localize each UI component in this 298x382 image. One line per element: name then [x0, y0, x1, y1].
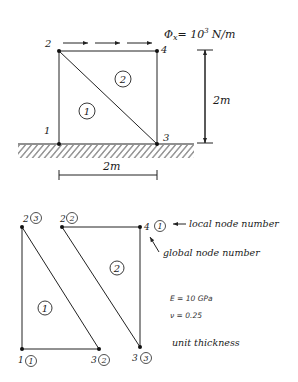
e1-global-node-3: 3	[91, 355, 97, 365]
element-label-1-bottom: 1	[42, 303, 48, 314]
height-dimension-label: 2m	[212, 94, 230, 107]
e2-node-dot-3	[138, 345, 142, 349]
element-label-2: 2	[119, 74, 126, 85]
e2-global-node-2: 2	[59, 214, 66, 224]
e2-local-node-2: 2	[68, 214, 74, 223]
global-node-arrow	[150, 237, 159, 252]
element-1-exploded: 1 2 3 1 1 3 2	[18, 213, 110, 367]
element-2-exploded: 2 2 2 4 1 3 3	[59, 213, 166, 364]
e2-node-dot-2	[60, 225, 64, 229]
node-label-3: 3	[163, 132, 169, 143]
fem-diagram: 1 2 3 4 1 2 Φx= 103N/m 2m	[0, 0, 298, 382]
poisson-ratio: ν = 0.25	[170, 311, 202, 320]
e1-node-dot-2	[20, 225, 24, 229]
e1-local-node-3: 3	[33, 214, 38, 223]
height-dimension	[197, 50, 213, 143]
legend: local node number global node number	[150, 218, 280, 258]
e2-local-node-3: 3	[143, 354, 148, 363]
e2-local-node-1: 1	[157, 222, 162, 231]
node-label-2: 2	[44, 38, 51, 49]
node-dot-3	[155, 142, 159, 146]
width-dimension-label: 2m	[102, 160, 120, 173]
e2-global-node-4: 4	[143, 222, 150, 232]
e1-local-node-2: 2	[100, 356, 106, 365]
thickness-note: unit thickness	[172, 337, 240, 348]
e1-node-dot-1	[20, 347, 24, 351]
local-node-number-label: local node number	[189, 218, 280, 229]
diagonal-2-3	[59, 51, 157, 144]
top-structure: 1 2 3 4 1 2 Φx= 103N/m 2m	[18, 27, 236, 180]
node-dot-4	[155, 49, 159, 53]
ground-support	[18, 145, 194, 158]
element-label-1: 1	[84, 106, 90, 117]
element-label-2-bottom: 2	[113, 263, 120, 274]
e1-node-dot-3	[97, 347, 101, 351]
e2-global-node-3: 3	[132, 353, 138, 363]
node-dot-2	[57, 49, 61, 53]
node-label-4: 4	[160, 44, 167, 55]
material-properties: E = 10 GPa ν = 0.25 unit thickness	[170, 294, 240, 348]
node-dot-1	[57, 142, 61, 146]
youngs-modulus: E = 10 GPa	[170, 294, 213, 303]
e1-local-node-1: 1	[28, 357, 33, 366]
e1-global-node-1: 1	[18, 355, 24, 365]
node-label-1: 1	[44, 125, 50, 136]
e1-global-node-2: 2	[22, 214, 29, 224]
global-node-number-label: global node number	[163, 247, 261, 258]
e2-node-dot-4	[138, 225, 142, 229]
load-label: Φx= 103N/m	[164, 27, 236, 42]
